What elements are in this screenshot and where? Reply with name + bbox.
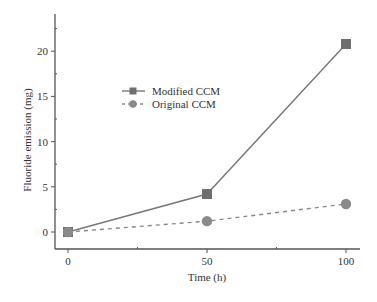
series-line-0 (68, 44, 346, 232)
data-point-circle (63, 227, 73, 237)
data-point-square (202, 189, 212, 199)
y-tick-label: 5 (43, 181, 49, 193)
y-tick-label: 0 (43, 226, 49, 238)
y-axis-title: Fluoride emission (mg) (21, 88, 34, 192)
y-tick-label: 10 (37, 136, 49, 148)
legend-label: Modified CCM (152, 85, 220, 97)
legend: Modified CCMOriginal CCM (122, 85, 220, 110)
data-point-circle (341, 199, 351, 209)
series-group (63, 39, 351, 237)
data-point-square (341, 39, 351, 49)
legend-label: Original CCM (152, 98, 216, 110)
x-tick-label: 0 (65, 255, 71, 267)
axes: 05101520050100 (37, 14, 360, 267)
x-tick-label: 50 (202, 255, 214, 267)
data-point-circle (202, 216, 212, 226)
line-chart: 05101520050100 Modified CCMOriginal CCM … (0, 0, 377, 302)
x-tick-label: 100 (338, 255, 355, 267)
y-tick-label: 20 (37, 45, 49, 57)
legend-circle-icon (129, 100, 137, 108)
y-tick-label: 15 (37, 90, 49, 102)
legend-square-icon (130, 88, 137, 95)
x-axis-title: Time (h) (188, 271, 227, 284)
